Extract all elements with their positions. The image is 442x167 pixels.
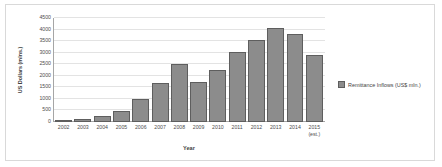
bar-slot (93, 18, 112, 122)
bar-slot (228, 18, 247, 122)
x-axis-tick-label: 2008 (170, 124, 189, 138)
bar-slot (131, 18, 150, 122)
bar-2013[interactable] (267, 28, 284, 122)
y-axis-tick-label: 1000 (39, 96, 51, 101)
chart-container: US Dollars (mlns.) 050010001500200025003… (5, 4, 435, 161)
bar-slot (247, 18, 266, 122)
y-axis-tick-label: 2000 (39, 73, 51, 78)
y-axis-tick-label: 3000 (39, 50, 51, 55)
x-axis-tick-label: 2010 (208, 124, 227, 138)
bar-slot (54, 18, 73, 122)
bar-2004[interactable] (94, 116, 111, 122)
bar-slot (189, 18, 208, 122)
x-axis-tick-label: 2015 (est.) (305, 124, 324, 138)
y-axis-tick-label: 4500 (39, 15, 51, 20)
bar-2002[interactable] (55, 120, 72, 122)
bar-slot (112, 18, 131, 122)
plot-area: 050010001500200025003000350040004500 (53, 18, 325, 122)
bar-2006[interactable] (132, 99, 149, 122)
bar-2015[interactable] (306, 55, 323, 122)
bar-slot (170, 18, 189, 122)
chart-legend: Remittance Inflows (US$ mln.) (338, 81, 421, 88)
bar-2012[interactable] (248, 40, 265, 122)
bar-2003[interactable] (74, 119, 91, 122)
x-axis-tick-label: 2011 (228, 124, 247, 138)
bar-slot (305, 18, 324, 122)
x-axis-tick-label: 2009 (189, 124, 208, 138)
bar-2005[interactable] (113, 111, 130, 122)
bar-2008[interactable] (171, 64, 188, 122)
y-axis-tick-label: 2500 (39, 62, 51, 67)
x-axis-tick-label: 2014 (285, 124, 304, 138)
bar-slot (73, 18, 92, 122)
bar-slot (285, 18, 304, 122)
x-axis-title: Year (53, 145, 325, 151)
y-axis-title: US Dollars (mlns.) (14, 18, 26, 122)
x-axis-tick-label: 2003 (73, 124, 92, 138)
x-axis-tick-label: 2007 (150, 124, 169, 138)
x-axis-tick-label: 2006 (131, 124, 150, 138)
y-axis-tick-label: 500 (42, 108, 51, 113)
bar-slot (208, 18, 227, 122)
bar-2011[interactable] (229, 52, 246, 122)
x-axis-tick-label: 2013 (266, 124, 285, 138)
bar-2009[interactable] (190, 82, 207, 122)
y-axis-title-label: US Dollars (mlns.) (17, 47, 23, 93)
x-axis-tick-label: 2002 (54, 124, 73, 138)
y-axis-tick-label: 0 (48, 119, 51, 124)
legend-color-swatch (338, 81, 345, 88)
x-axis-tick-label: 2004 (93, 124, 112, 138)
bar-slot (266, 18, 285, 122)
y-axis-tick-label: 3500 (39, 39, 51, 44)
bar-2014[interactable] (287, 34, 304, 122)
x-axis-tick-labels: 2002200320042005200620072008200920102011… (53, 124, 325, 138)
bar-series (53, 18, 325, 122)
bar-2007[interactable] (152, 83, 169, 122)
bar-2010[interactable] (209, 70, 226, 122)
y-axis-tick-label: 1500 (39, 85, 51, 90)
x-axis-tick-label: 2005 (112, 124, 131, 138)
legend-item-label: Remittance Inflows (US$ mln.) (348, 82, 421, 88)
y-axis-tick-label: 4000 (39, 27, 51, 32)
bar-slot (150, 18, 169, 122)
x-axis-tick-label: 2012 (247, 124, 266, 138)
